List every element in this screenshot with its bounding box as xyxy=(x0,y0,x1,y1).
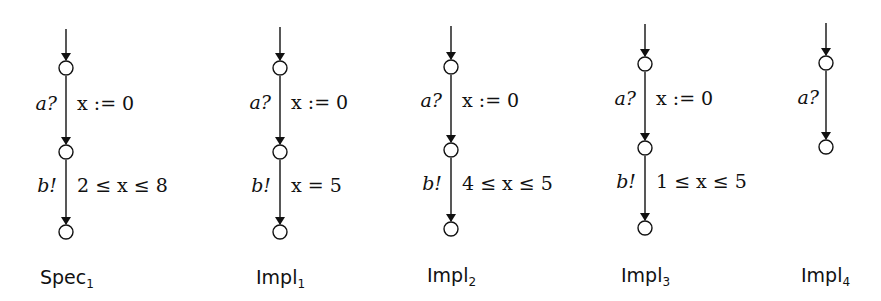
state-1 xyxy=(273,145,287,159)
state-0 xyxy=(638,57,652,71)
automaton-spec1: a? x := 0 b! 2 ≤ x ≤ 8 Spec1 xyxy=(35,29,167,291)
guard-label: 1 ≤ x ≤ 5 xyxy=(656,170,747,192)
state-0 xyxy=(819,56,833,70)
action-label: b! xyxy=(251,174,271,196)
guard-label: 2 ≤ x ≤ 8 xyxy=(77,174,168,196)
state-2 xyxy=(273,225,287,239)
automaton-caption: Impl4 xyxy=(801,264,850,289)
automaton-impl2: a? x := 0 b! 4 ≤ x ≤ 5 Impl2 xyxy=(420,26,552,289)
action-label: a? xyxy=(797,86,819,108)
guard-label: 4 ≤ x ≤ 5 xyxy=(462,172,553,194)
automaton-impl3: a? x := 0 b! 1 ≤ x ≤ 5 Impl3 xyxy=(614,24,746,289)
state-2 xyxy=(638,221,652,235)
timed-automata-diagram: a? x := 0 b! 2 ≤ x ≤ 8 Spec1 a? x := 0 b… xyxy=(0,0,881,301)
automaton-impl1: a? x := 0 b! x = 5 Impl1 xyxy=(249,27,348,291)
automaton-caption: Impl3 xyxy=(621,264,670,289)
action-label: b! xyxy=(422,172,442,194)
automaton-caption: Impl2 xyxy=(427,264,476,289)
state-1 xyxy=(819,140,833,154)
action-label: b! xyxy=(37,174,57,196)
guard-label: x = 5 xyxy=(291,174,342,196)
guard-label: x := 0 xyxy=(77,92,134,114)
guard-label: x := 0 xyxy=(291,91,348,113)
state-1 xyxy=(444,143,458,157)
action-label: a? xyxy=(420,89,442,111)
guard-label: x := 0 xyxy=(462,89,519,111)
automaton-caption: Impl1 xyxy=(256,266,305,291)
automaton-caption: Spec1 xyxy=(40,266,94,291)
state-2 xyxy=(444,222,458,236)
action-label: a? xyxy=(35,92,57,114)
state-0 xyxy=(444,60,458,74)
state-0 xyxy=(273,61,287,75)
action-label: a? xyxy=(249,91,271,113)
state-1 xyxy=(59,145,73,159)
state-0 xyxy=(59,61,73,75)
action-label: b! xyxy=(616,170,636,192)
state-1 xyxy=(638,141,652,155)
action-label: a? xyxy=(614,87,636,109)
guard-label: x := 0 xyxy=(656,87,713,109)
automaton-impl4: a? Impl4 xyxy=(797,23,850,289)
state-2 xyxy=(59,225,73,239)
